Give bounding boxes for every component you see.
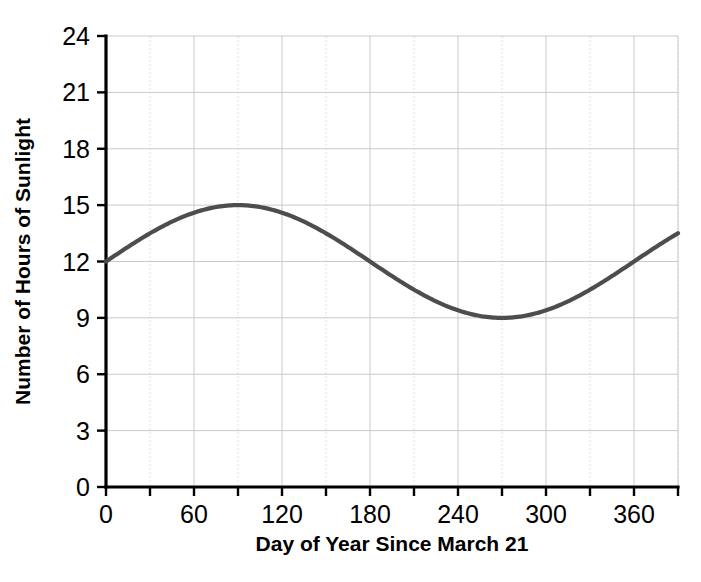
x-tick-label: 360 xyxy=(613,500,655,528)
y-tick-label: 18 xyxy=(62,135,90,163)
y-tick-label: 12 xyxy=(62,248,90,276)
x-axis-title: Day of Year Since March 21 xyxy=(256,532,529,555)
x-tick-label: 180 xyxy=(349,500,391,528)
chart-container: 03691215182124 060120180240300360 Number… xyxy=(0,0,701,582)
y-tick-label: 15 xyxy=(62,191,90,219)
x-tick-label: 0 xyxy=(99,500,113,528)
x-tick-label: 240 xyxy=(437,500,479,528)
y-tick-label: 21 xyxy=(62,78,90,106)
x-tick-label: 120 xyxy=(261,500,303,528)
y-tick-label: 0 xyxy=(76,473,90,501)
x-tick-label: 60 xyxy=(180,500,208,528)
y-tick-label: 9 xyxy=(76,304,90,332)
y-tick-label: 24 xyxy=(62,22,90,50)
x-tick-label: 300 xyxy=(525,500,567,528)
y-tick-label: 3 xyxy=(76,417,90,445)
sunlight-line-chart: 03691215182124 060120180240300360 Number… xyxy=(0,0,701,582)
y-axis-title: Number of Hours of Sunlight xyxy=(11,118,34,405)
y-tick-label: 6 xyxy=(76,360,90,388)
